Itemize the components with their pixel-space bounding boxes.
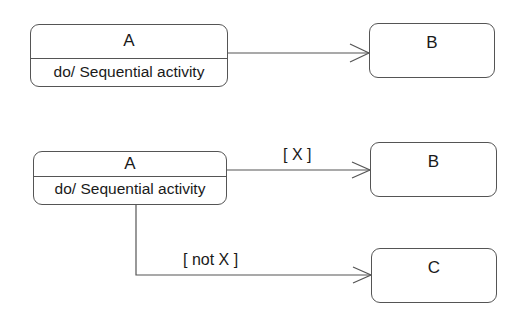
transition-a-to-b-top: [228, 44, 369, 62]
state-a-top-activity: do/ Sequential activity: [31, 62, 227, 82]
guard-not-x-label: [ not X ]: [183, 251, 238, 269]
state-b-bottom: B: [370, 142, 497, 197]
state-b-top: B: [369, 23, 495, 78]
state-diagram: A do/ Sequential activity B A do/ Sequen…: [0, 0, 527, 319]
state-c-name: C: [372, 258, 496, 278]
state-a-bottom: A do/ Sequential activity: [33, 151, 227, 205]
state-a-bottom-activity: do/ Sequential activity: [34, 179, 226, 199]
state-a-bottom-name: A: [34, 154, 226, 174]
state-c: C: [371, 248, 497, 303]
transition-a-to-b-guard-x: [227, 162, 370, 178]
state-b-top-name: B: [370, 33, 494, 53]
state-a-bottom-divider: [34, 176, 226, 177]
transition-a-to-c-guard-not-x: [136, 205, 371, 283]
guard-x-label: [ X ]: [283, 146, 311, 164]
state-a-top: A do/ Sequential activity: [30, 24, 228, 87]
state-a-top-divider: [31, 58, 227, 59]
state-a-top-name: A: [31, 31, 227, 51]
state-b-bottom-name: B: [371, 152, 496, 172]
